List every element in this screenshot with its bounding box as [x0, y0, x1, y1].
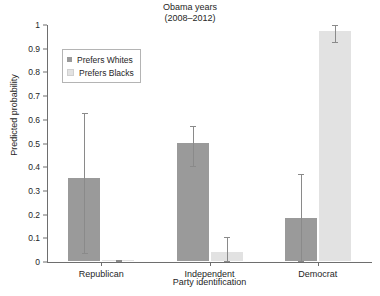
y-tick-mark	[43, 72, 47, 73]
y-tick-mark	[43, 143, 47, 144]
error-cap-top	[190, 126, 196, 127]
x-tick-label: Democrat	[298, 269, 337, 279]
x-tick-mark	[210, 262, 211, 266]
error-cap-bottom	[298, 261, 304, 262]
y-axis-line	[47, 25, 48, 263]
y-tick-mark	[43, 96, 47, 97]
error-cap-top	[332, 25, 338, 26]
error-cap-top	[298, 174, 304, 175]
y-tick-mark	[43, 25, 47, 26]
x-tick-mark	[101, 262, 102, 266]
chart-figure: Obama years (2008–2012) Predicted probab…	[0, 0, 380, 296]
y-axis-label: Predicted probability	[9, 45, 19, 185]
error-cap-bottom	[116, 261, 122, 262]
y-tick-label: 0.4	[28, 162, 40, 172]
y-tick-label: 0.1	[28, 233, 40, 243]
chart-legend: Prefers Whites Prefers Blacks	[62, 49, 141, 83]
error-cap-top	[224, 237, 230, 238]
error-cap-bottom	[190, 166, 196, 167]
y-tick-mark	[43, 214, 47, 215]
error-bar-democrat-prefers-blacks	[335, 25, 336, 43]
legend-label-prefers-whites: Prefers Whites	[77, 55, 133, 65]
chart-title: Obama years (2008–2012)	[0, 2, 380, 24]
y-tick-label: 0	[35, 257, 40, 267]
y-tick-label: 0.5	[28, 139, 40, 149]
error-cap-bottom	[332, 42, 338, 43]
y-tick-mark	[43, 238, 47, 239]
error-bar-democrat-prefers-whites	[301, 174, 302, 262]
legend-item-prefers-blacks: Prefers Blacks	[67, 66, 134, 79]
error-cap-top	[82, 113, 88, 114]
error-bar-republican-prefers-blacks	[118, 260, 119, 262]
y-tick-label: 0.6	[28, 115, 40, 125]
y-tick-label: 0.7	[28, 91, 40, 101]
error-bar-independent-prefers-blacks	[227, 237, 228, 262]
x-tick-label: Republican	[79, 269, 124, 279]
y-tick-mark	[43, 167, 47, 168]
bar-democrat-prefers-blacks	[319, 31, 351, 261]
legend-item-prefers-whites: Prefers Whites	[67, 53, 134, 66]
error-bar-independent-prefers-whites	[193, 126, 194, 167]
error-bar-republican-prefers-whites	[84, 113, 85, 254]
legend-label-prefers-blacks: Prefers Blacks	[79, 68, 134, 78]
legend-swatch-icon-prefers-blacks	[67, 69, 74, 76]
x-tick-mark	[318, 262, 319, 266]
y-tick-label: 0.8	[28, 67, 40, 77]
y-tick-mark	[43, 48, 47, 49]
y-tick-label: 0.9	[28, 44, 40, 54]
y-tick-mark	[43, 119, 47, 120]
y-tick-label: 1	[35, 20, 40, 30]
x-tick-label: Independent	[184, 269, 234, 279]
legend-swatch-icon-prefers-whites	[67, 57, 72, 62]
y-tick-mark	[43, 190, 47, 191]
chart-title-line-1: Obama years	[0, 2, 380, 13]
y-tick-mark	[43, 262, 47, 263]
error-cap-bottom	[82, 253, 88, 254]
y-tick-label: 0.3	[28, 186, 40, 196]
chart-title-line-2: (2008–2012)	[0, 13, 380, 24]
y-tick-label: 0.2	[28, 210, 40, 220]
error-cap-bottom	[224, 261, 230, 262]
